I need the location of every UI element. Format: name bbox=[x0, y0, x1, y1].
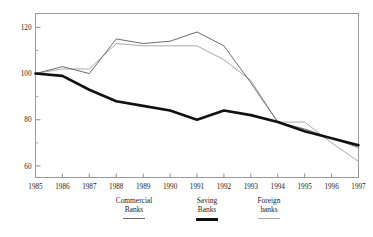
y-tick-label: 80 bbox=[24, 116, 32, 124]
x-tick-label: 1988 bbox=[109, 183, 124, 191]
x-tick-label: 1987 bbox=[82, 183, 97, 191]
y-tick-label: 100 bbox=[21, 70, 32, 78]
legend-swatch-saving bbox=[196, 218, 218, 221]
legend-swatch-commercial bbox=[123, 218, 145, 219]
x-tick-label: 1989 bbox=[136, 183, 151, 191]
legend-label-commercial-line1: Commercial bbox=[104, 196, 164, 205]
series-line-commercial-banks bbox=[36, 32, 359, 147]
legend-label-commercial-line2: Banks bbox=[104, 205, 164, 214]
y-tick-label: 60 bbox=[24, 163, 32, 171]
series-line-saving-banks bbox=[36, 74, 359, 146]
chart-plot-area: 6080100120198519861987198819891990199119… bbox=[0, 0, 373, 190]
legend-item-foreign[interactable]: Foreign banks bbox=[243, 196, 295, 219]
x-tick-label: 1992 bbox=[217, 183, 232, 191]
x-tick-label: 1985 bbox=[28, 183, 43, 191]
chart-legend: Commercial Banks Saving Banks Foreign ba… bbox=[0, 196, 373, 237]
series-line-foreign-banks bbox=[36, 44, 359, 162]
legend-item-saving[interactable]: Saving Banks bbox=[183, 196, 231, 221]
x-tick-label: 1995 bbox=[297, 183, 312, 191]
x-tick-label: 1996 bbox=[324, 183, 339, 191]
plot-frame bbox=[36, 14, 359, 178]
x-tick-label: 1994 bbox=[271, 183, 286, 191]
figure-root: 6080100120198519861987198819891990199119… bbox=[0, 0, 373, 237]
legend-swatch-foreign bbox=[258, 218, 280, 219]
x-tick-label: 1986 bbox=[55, 183, 70, 191]
legend-label-saving-line1: Saving bbox=[183, 196, 231, 205]
line-chart: 6080100120198519861987198819891990199119… bbox=[0, 0, 373, 190]
legend-label-saving-line2: Banks bbox=[183, 205, 231, 214]
x-tick-label: 1990 bbox=[163, 183, 178, 191]
x-tick-label: 1991 bbox=[190, 183, 205, 191]
y-tick-label: 120 bbox=[21, 24, 32, 32]
legend-item-commercial[interactable]: Commercial Banks bbox=[104, 196, 164, 219]
legend-label-foreign-line2: banks bbox=[243, 205, 295, 214]
x-tick-label: 1993 bbox=[244, 183, 259, 191]
legend-label-foreign-line1: Foreign bbox=[243, 196, 295, 205]
x-tick-label: 1997 bbox=[351, 183, 366, 191]
